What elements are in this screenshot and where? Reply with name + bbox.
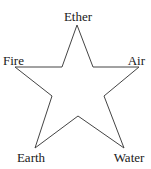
pentagram-diagram: Ether Fire Air Earth Water	[0, 0, 151, 169]
label-earth: Earth	[17, 150, 46, 165]
label-fire: Fire	[3, 53, 24, 68]
label-air: Air	[128, 53, 146, 68]
label-ether: Ether	[64, 9, 93, 24]
star-outline	[15, 25, 139, 148]
label-water: Water	[114, 150, 145, 165]
